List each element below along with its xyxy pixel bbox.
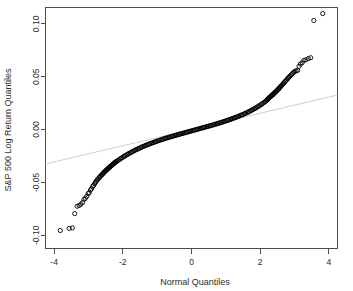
data-point <box>73 212 77 216</box>
data-point <box>312 18 316 22</box>
y-tick-label: 0.05 <box>31 68 41 85</box>
plot-canvas: -4-2024 -0.10-0.050.000.050.10 Normal Qu… <box>0 0 353 291</box>
y-tick-label: -0.05 <box>31 172 41 192</box>
x-tick-label: 0 <box>189 257 194 267</box>
x-tick-label: 4 <box>327 257 332 267</box>
plot-frame <box>46 8 338 249</box>
y-tick-label: 0.00 <box>31 121 41 138</box>
y-axis-ticks <box>41 24 46 235</box>
qq-plot-figure: -4-2024 -0.10-0.050.000.050.10 Normal Qu… <box>0 0 353 291</box>
y-tick-label: -0.10 <box>31 225 41 245</box>
data-point <box>321 11 325 15</box>
x-axis-title: Normal Quantiles <box>160 277 230 287</box>
data-point <box>58 228 62 232</box>
x-tick-label: -2 <box>119 257 127 267</box>
x-axis-tick-labels: -4-2024 <box>50 257 331 267</box>
y-tick-label: 0.10 <box>31 15 41 32</box>
data-points <box>58 11 325 232</box>
x-tick-label: 2 <box>258 257 263 267</box>
x-tick-label: -4 <box>50 257 58 267</box>
y-axis-tick-labels: -0.10-0.050.000.050.10 <box>31 15 41 245</box>
x-axis-ticks <box>54 249 329 254</box>
y-axis-title: S&P 500 Log Return Quantiles <box>3 68 13 191</box>
